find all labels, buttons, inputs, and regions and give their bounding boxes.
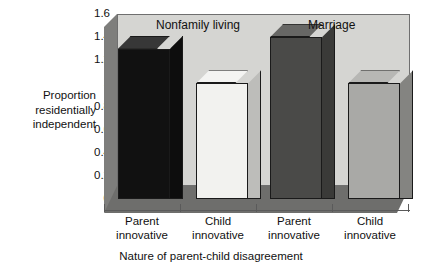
bar-side-face: [170, 36, 183, 199]
bar-front-face: [270, 37, 322, 199]
x-tick-mark: [104, 204, 105, 212]
y-axis-title-line-2: residentially: [4, 103, 96, 118]
x-tick-mark: [256, 204, 257, 212]
x-axis-title: Nature of parent-child disagreement: [0, 250, 422, 262]
bar-top-face: [348, 70, 400, 83]
group-label-marriage: Marriage: [308, 18, 355, 32]
bar: [270, 24, 322, 199]
x-tick-mark: [180, 204, 181, 212]
x-tick-label-line-2: innovative: [324, 228, 416, 242]
x-tick-mark: [408, 204, 409, 212]
bar: [196, 70, 248, 199]
x-tick-mark: [332, 204, 333, 212]
group-label-nonfamily-living: Nonfamily living: [156, 18, 240, 32]
x-tick-label: Childinnovative: [324, 214, 416, 242]
bar-front-face: [196, 83, 248, 199]
bar-front-face: [118, 49, 170, 199]
bar-side-face: [248, 70, 261, 199]
bar: [348, 70, 400, 199]
bar-top-face: [196, 70, 248, 83]
bar: [118, 36, 170, 199]
bar-side-face: [322, 24, 335, 199]
bar-top-face: [118, 36, 170, 49]
plot-area: Nonfamily living Marriage: [104, 14, 410, 199]
x-axis-line: [104, 210, 410, 211]
bar-front-face: [348, 83, 400, 199]
y-axis-title-line-1: Proportion: [4, 88, 96, 103]
y-axis-title: Proportion residentially independent: [4, 88, 96, 132]
x-tick-label-line-1: Child: [324, 214, 416, 228]
chart-figure: Proportion residentially independent 00.…: [0, 0, 422, 277]
bar-side-face: [400, 70, 413, 199]
plot-left-wall: [104, 14, 118, 212]
y-axis-title-line-3: independent: [4, 117, 96, 132]
